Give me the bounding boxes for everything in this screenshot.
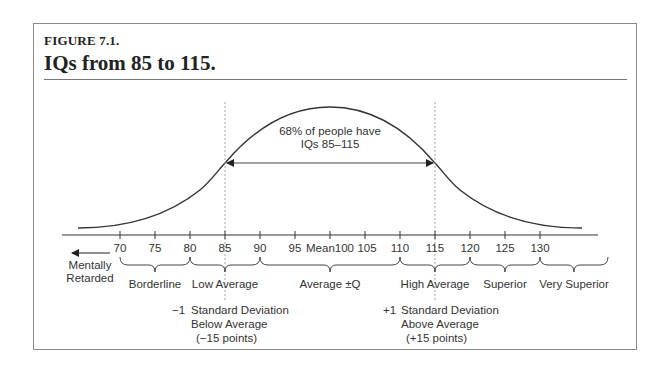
range-label-very-superior: Very Superior <box>539 278 609 290</box>
tick-label: 75 <box>149 242 162 254</box>
mentally-label-1: Mentally <box>69 259 112 271</box>
sd-plus-line-2: Above Average <box>401 318 479 330</box>
range-labels: Borderline Low Average Average ±Q High A… <box>129 278 609 290</box>
sd-plus-sign: +1 <box>383 304 396 316</box>
sd-plus-annotation: +1 Standard Deviation Above Average (+15… <box>383 304 499 344</box>
tick-label: 90 <box>254 242 267 254</box>
iq-distribution-chart: 68% of people have IQs 85–115 70 75 80 8… <box>0 0 669 370</box>
range-label-borderline: Borderline <box>129 278 181 290</box>
tick-label: 115 <box>426 242 444 254</box>
tick-label: 105 <box>357 242 376 254</box>
tick-label: 95 <box>289 242 302 254</box>
sd-minus-sign: −1 <box>172 304 185 316</box>
tick-label-mean: Mean100 <box>306 242 354 254</box>
range-braces <box>120 257 608 272</box>
sd-minus-line-1: Standard Deviation <box>191 304 289 316</box>
mentally-label-2: Retarded <box>66 272 113 284</box>
tick-labels: 70 75 80 85 90 95 Mean100 105 110 115 12… <box>114 242 550 254</box>
sd-minus-annotation: −1 Standard Deviation Below Average (−15… <box>172 304 289 344</box>
tick-label: 120 <box>460 242 479 254</box>
range-label-low-average: Low Average <box>192 278 258 290</box>
sd-plus-line-1: Standard Deviation <box>401 304 499 316</box>
sd-minus-line-2: Below Average <box>191 318 268 330</box>
range-label-superior: Superior <box>483 278 527 290</box>
sd-minus-line-3: (−15 points) <box>196 332 257 344</box>
range-label-average: Average ±Q <box>299 278 360 290</box>
tick-label: 85 <box>219 242 232 254</box>
range-label-high-average: High Average <box>401 278 470 290</box>
sd-plus-line-3: (+15 points) <box>406 332 467 344</box>
tick-label: 70 <box>114 242 127 254</box>
annotation-line-1: 68% of people have <box>279 125 381 137</box>
annotation-line-2: IQs 85–115 <box>301 138 360 150</box>
tick-label: 125 <box>495 242 514 254</box>
tick-label: 80 <box>184 242 197 254</box>
tick-label: 130 <box>530 242 549 254</box>
tick-label: 110 <box>391 242 409 254</box>
